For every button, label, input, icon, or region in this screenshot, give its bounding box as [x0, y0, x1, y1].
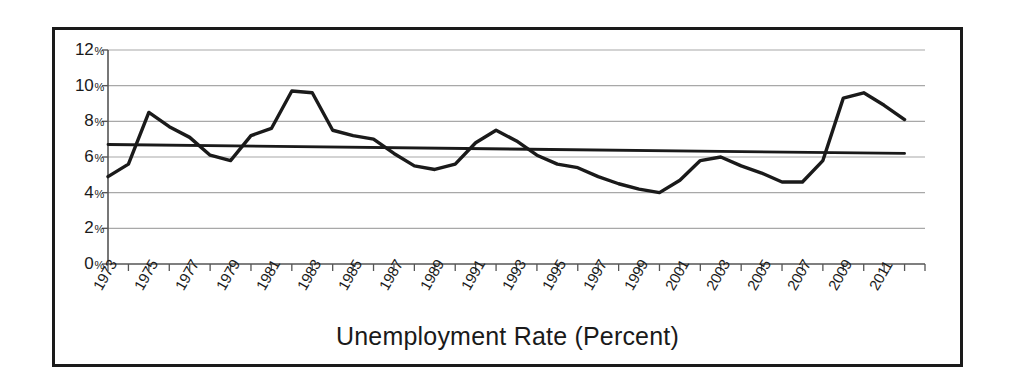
x-axis-title: Unemployment Rate (Percent) [52, 322, 963, 351]
x-tick-label: 1999 [620, 257, 651, 293]
x-tick-label: 2003 [702, 257, 733, 293]
x-tick-label: 1977 [171, 257, 202, 293]
x-tick-label: 2011 [865, 258, 895, 293]
x-tick-label: 2005 [743, 257, 774, 293]
x-tick-label: 1989 [416, 257, 447, 293]
x-tick-label: 1993 [498, 257, 529, 293]
x-tick-label: 1985 [334, 257, 365, 293]
x-tick-label: 1987 [375, 257, 406, 293]
x-tick-label: 1973 [89, 257, 120, 293]
x-tick-label: 2009 [825, 257, 856, 293]
x-tick-label: 2007 [784, 257, 815, 293]
x-tick-label: 1975 [130, 257, 161, 293]
x-tick-label: 1983 [294, 257, 325, 293]
x-tick-label: 1995 [539, 257, 570, 293]
x-tick-label: 1981 [253, 257, 284, 293]
x-tick-label: 1997 [579, 257, 610, 293]
x-tick-label: 1991 [457, 257, 488, 293]
chart-figure: 0%2%4%6%8%10%12% 19731975197719791981198… [0, 0, 1011, 389]
x-tick-label: 1979 [212, 257, 243, 293]
x-tick-label: 2001 [661, 257, 692, 293]
